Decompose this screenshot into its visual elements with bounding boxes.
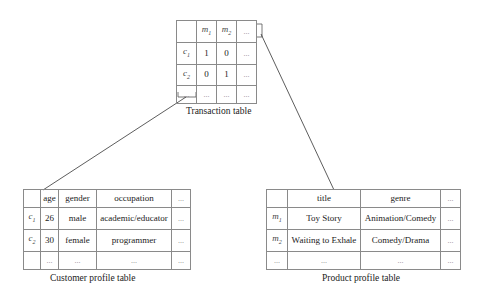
row-key: m2 xyxy=(267,229,288,251)
transaction-table-caption: Transaction table xyxy=(186,106,251,116)
cell: ... xyxy=(288,251,361,269)
row-key: c1 xyxy=(177,42,197,64)
cell: ... xyxy=(97,251,172,269)
header-cell: ... xyxy=(237,21,257,43)
cell: ... xyxy=(237,64,257,86)
header-cell: genre xyxy=(361,190,441,208)
cell: ... xyxy=(441,251,461,269)
cell: ... xyxy=(172,208,191,230)
header-cell: age xyxy=(41,190,59,208)
cell: ... xyxy=(441,208,461,230)
cell: 26 xyxy=(41,208,59,230)
cell: 0 xyxy=(197,64,217,86)
cell: ... xyxy=(441,229,461,251)
table-row: ... ... ... ... xyxy=(267,251,461,269)
header-cell: m1 xyxy=(197,21,217,43)
cell: Waiting to Exhale xyxy=(288,229,361,251)
table-row: c1 26 male academic/educator ... xyxy=(24,208,191,230)
table-header-row: age gender occupation ... xyxy=(24,190,191,208)
header-cell: title xyxy=(288,190,361,208)
row-key: c2 xyxy=(177,64,197,86)
customer-link-line xyxy=(43,97,186,190)
cell: ... xyxy=(59,251,97,269)
cell: ... xyxy=(267,251,288,269)
table-row: ... ... ... ... xyxy=(177,86,257,104)
cell: male xyxy=(59,208,97,230)
row-key: m1 xyxy=(267,208,288,230)
cell: ... xyxy=(217,86,237,104)
cell: Toy Story xyxy=(288,208,361,230)
header-cell xyxy=(177,21,197,43)
header-cell xyxy=(24,190,41,208)
cell: ... xyxy=(41,251,59,269)
cell: ... xyxy=(237,42,257,64)
product-link-line xyxy=(261,34,334,190)
cell: ... xyxy=(197,86,217,104)
cell: 30 xyxy=(41,229,59,251)
table-row: m2 Waiting to Exhale Comedy/Drama ... xyxy=(267,229,461,251)
transaction-table: m1 m2 ... c1 1 0 ... c2 0 1 ... ... ... … xyxy=(176,20,257,104)
cell: Animation/Comedy xyxy=(361,208,441,230)
customer-profile-table: age gender occupation ... c1 26 male aca… xyxy=(23,189,191,270)
cell: 0 xyxy=(217,42,237,64)
cell: Comedy/Drama xyxy=(361,229,441,251)
cell: academic/educator xyxy=(97,208,172,230)
table-header-row: title genre ... xyxy=(267,190,461,208)
header-cell: occupation xyxy=(97,190,172,208)
cell: 1 xyxy=(217,64,237,86)
header-cell: gender xyxy=(59,190,97,208)
table-row: c2 0 1 ... xyxy=(177,64,257,86)
header-cell xyxy=(267,190,288,208)
row-key: c2 xyxy=(24,229,41,251)
cell: ... xyxy=(361,251,441,269)
cell: female xyxy=(59,229,97,251)
table-header-row: m1 m2 ... xyxy=(177,21,257,43)
cell: 1 xyxy=(197,42,217,64)
cell: ... xyxy=(172,229,191,251)
table-row: ... ... ... ... xyxy=(24,251,191,269)
product-table-caption: Product profile table xyxy=(322,273,400,283)
cell: ... xyxy=(237,86,257,104)
cell xyxy=(24,251,41,269)
customer-table-caption: Customer profile table xyxy=(50,273,135,283)
table-row: c2 30 female programmer ... xyxy=(24,229,191,251)
cell: ... xyxy=(177,86,197,104)
row-key: c1 xyxy=(24,208,41,230)
table-row: c1 1 0 ... xyxy=(177,42,257,64)
cell: ... xyxy=(172,251,191,269)
header-cell: m2 xyxy=(217,21,237,43)
header-cell: ... xyxy=(172,190,191,208)
product-profile-table: title genre ... m1 Toy Story Animation/C… xyxy=(266,189,461,270)
table-row: m1 Toy Story Animation/Comedy ... xyxy=(267,208,461,230)
header-cell: ... xyxy=(441,190,461,208)
cell: programmer xyxy=(97,229,172,251)
